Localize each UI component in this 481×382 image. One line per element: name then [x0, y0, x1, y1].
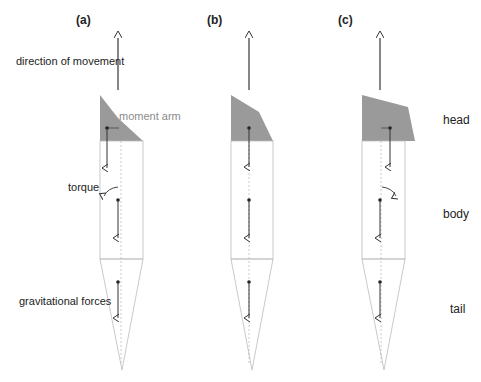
- panel-a: [100, 38, 143, 370]
- head-shape: [231, 95, 273, 141]
- body-outline: [100, 141, 143, 259]
- panel-label-a: (a): [76, 14, 91, 26]
- panel-b: [231, 38, 273, 370]
- panel-label-c: (c): [338, 14, 353, 26]
- gravitational-label: gravitational forces: [19, 296, 111, 307]
- panel-c: [362, 38, 415, 370]
- torque-arrow: [104, 187, 118, 196]
- tail-outline: [362, 259, 405, 370]
- direction-label: direction of movement: [16, 56, 124, 67]
- body-outline: [231, 141, 273, 259]
- segment-label-head: head: [443, 114, 470, 126]
- tail-outline: [100, 259, 143, 370]
- head-shape: [362, 95, 415, 141]
- torque-arrow: [382, 187, 396, 196]
- torque-label: torque: [68, 182, 99, 193]
- segment-label-body: body: [443, 208, 469, 220]
- moment-arm-label: moment arm: [119, 111, 181, 122]
- tail-outline: [231, 259, 273, 370]
- panel-label-b: (b): [207, 14, 222, 26]
- body-outline: [362, 141, 405, 259]
- segment-label-tail: tail: [450, 303, 465, 315]
